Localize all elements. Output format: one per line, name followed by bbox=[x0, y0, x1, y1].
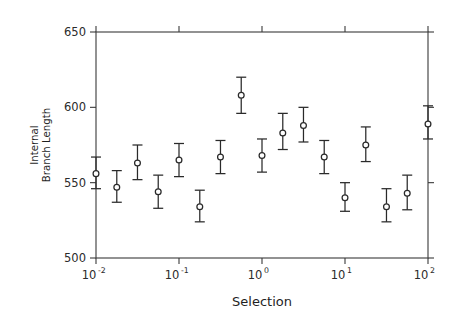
data-point-group bbox=[195, 190, 205, 222]
x-tick-exponent: -1 bbox=[181, 266, 189, 275]
data-point-group bbox=[112, 171, 122, 203]
data-point-marker bbox=[342, 195, 348, 201]
x-tick-base: 10 bbox=[331, 268, 346, 282]
data-point-marker bbox=[218, 154, 224, 160]
y-axis-tick-label: 600 bbox=[64, 100, 86, 114]
data-point-marker bbox=[321, 154, 327, 160]
data-point-group bbox=[236, 77, 246, 113]
data-point-group bbox=[91, 157, 101, 189]
data-point-marker bbox=[114, 184, 120, 190]
y-axis-tick-label: 500 bbox=[64, 251, 86, 265]
data-point-marker bbox=[363, 142, 369, 148]
data-point-group bbox=[132, 145, 142, 180]
y-axis-title-line: Internal bbox=[29, 125, 40, 164]
data-point-group bbox=[215, 140, 225, 173]
axis-labels-layer: 50055060065010-210-1100101102SelectionIn… bbox=[29, 25, 435, 309]
data-point-group bbox=[298, 107, 308, 142]
data-point-marker bbox=[238, 92, 244, 98]
x-tick-exponent: 2 bbox=[430, 266, 435, 275]
scatter-plot-with-errorbars: 50055060065010-210-1100101102SelectionIn… bbox=[0, 0, 456, 321]
data-point-marker bbox=[155, 189, 161, 195]
data-point-marker bbox=[93, 171, 99, 177]
data-point-marker bbox=[425, 121, 431, 127]
data-point-group bbox=[319, 140, 329, 173]
data-point-group bbox=[340, 183, 350, 212]
y-axis-title-line: Branch Length bbox=[41, 108, 52, 182]
data-point-marker bbox=[280, 130, 286, 136]
data-point-group bbox=[153, 175, 163, 208]
chart-figure: 50055060065010-210-1100101102SelectionIn… bbox=[0, 0, 456, 321]
x-axis-tick-label: 101 bbox=[331, 266, 352, 282]
data-point-marker bbox=[176, 157, 182, 163]
y-axis-tick-label: 550 bbox=[64, 176, 86, 190]
x-tick-base: 10 bbox=[165, 268, 180, 282]
data-point-marker bbox=[135, 160, 141, 166]
x-axis-tick-label: 10-2 bbox=[82, 266, 106, 282]
data-point-group bbox=[174, 143, 184, 176]
x-axis-tick-label: 10-1 bbox=[165, 266, 189, 282]
x-tick-exponent: 1 bbox=[347, 266, 352, 275]
x-tick-base: 10 bbox=[82, 268, 97, 282]
data-point-marker bbox=[259, 153, 265, 159]
x-axis-tick-label: 102 bbox=[414, 266, 435, 282]
data-point-marker bbox=[404, 190, 410, 196]
y-axis-tick-label: 650 bbox=[64, 25, 86, 39]
data-series-layer bbox=[91, 77, 433, 222]
x-axis-tick-label: 100 bbox=[248, 266, 269, 282]
data-point-marker bbox=[197, 204, 203, 210]
x-tick-base: 10 bbox=[248, 268, 263, 282]
data-point-group bbox=[257, 139, 267, 172]
data-point-group bbox=[361, 127, 371, 162]
data-point-marker bbox=[384, 204, 390, 210]
data-point-group bbox=[381, 189, 391, 222]
x-axis-title: Selection bbox=[232, 294, 292, 309]
data-point-marker bbox=[301, 123, 307, 129]
data-point-group bbox=[402, 175, 412, 210]
data-point-group bbox=[423, 106, 433, 139]
data-point-group bbox=[278, 113, 288, 149]
x-tick-exponent: 0 bbox=[264, 266, 269, 275]
x-tick-base: 10 bbox=[414, 268, 429, 282]
x-tick-exponent: -2 bbox=[98, 266, 106, 275]
